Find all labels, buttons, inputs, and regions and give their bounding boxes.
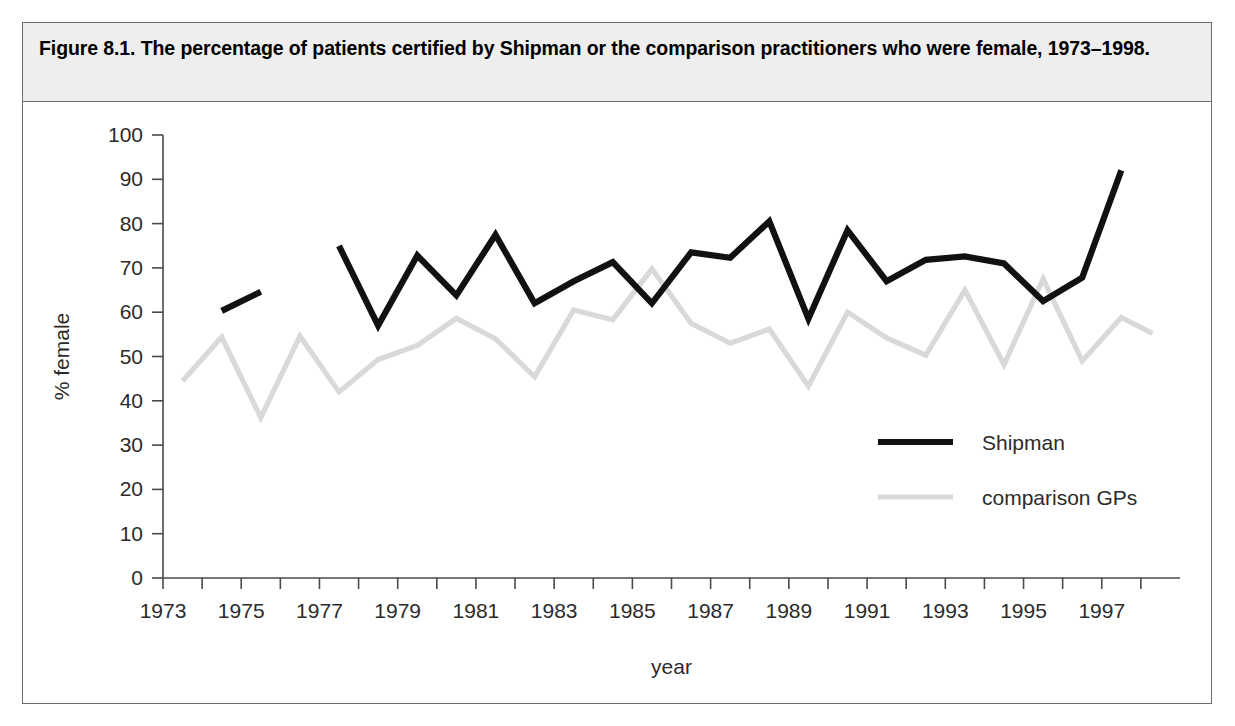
x-tick-label: 1973 [140,599,187,622]
x-tick-label: 1981 [453,599,500,622]
y-tick-label: 70 [120,256,143,279]
x-tick-label: 1979 [374,599,421,622]
x-tick-label: 1977 [296,599,343,622]
y-tick-label: 80 [120,212,143,235]
line-chart: 0102030405060708090100 % female 19731975… [23,102,1211,703]
y-tick-marks [152,135,163,578]
chart-legend: Shipmancomparison GPs [878,431,1137,509]
x-axis: 1973197519771979198119831985198719891991… [140,578,1180,678]
series-line-comparison-gps [183,269,1153,418]
x-tick-label: 1997 [1078,599,1125,622]
x-axis-title: year [651,655,692,678]
x-tick-label: 1995 [1000,599,1047,622]
y-tick-label: 10 [120,522,143,545]
y-tick-label: 0 [131,566,143,589]
x-tick-label: 1989 [765,599,812,622]
x-tick-labels: 1973197519771979198119831985198719891991… [140,599,1125,622]
legend-label-shipman: Shipman [982,431,1065,454]
series-group [183,170,1153,417]
figure-caption-band: Figure 8.1. The percentage of patients c… [23,23,1211,102]
x-tick-label: 1991 [844,599,891,622]
x-tick-label: 1983 [531,599,578,622]
y-tick-label: 30 [120,433,143,456]
plot-area: 0102030405060708090100 % female 19731975… [23,102,1211,703]
y-tick-label: 60 [120,300,143,323]
legend-label-comparison-gps: comparison GPs [982,486,1137,509]
y-tick-label: 90 [120,167,143,190]
y-tick-label: 20 [120,477,143,500]
figure-container: Figure 8.1. The percentage of patients c… [0,0,1235,726]
y-tick-label: 100 [108,123,143,146]
y-axis: 0102030405060708090100 % female [50,123,163,589]
series-line-shipman-early [222,292,261,311]
series-line-shipman [339,170,1121,325]
y-tick-labels: 0102030405060708090100 [108,123,143,589]
y-axis-title: % female [50,313,73,401]
figure-caption: Figure 8.1. The percentage of patients c… [39,34,1189,63]
x-tick-label: 1975 [218,599,265,622]
y-tick-label: 40 [120,389,143,412]
y-tick-label: 50 [120,345,143,368]
x-tick-label: 1985 [609,599,656,622]
x-tick-label: 1987 [687,599,734,622]
x-tick-marks [163,578,1141,589]
x-tick-label: 1993 [922,599,969,622]
